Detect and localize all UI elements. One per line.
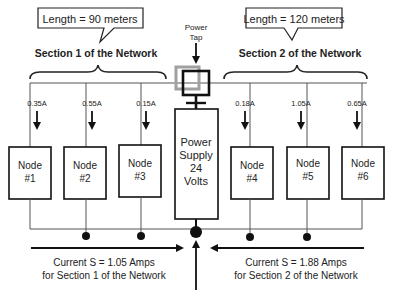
node-3-current: 0.15A	[136, 99, 156, 108]
node-3: 0.15A Node #3	[119, 83, 161, 240]
section-1-current-line2: for Section 1 of the Network	[42, 270, 166, 281]
power-supply-line3: 24	[190, 162, 202, 174]
junction-dot	[246, 233, 254, 241]
node-3-label: Node	[128, 158, 152, 169]
node-2-number: #2	[79, 173, 91, 184]
section-1-brace	[30, 65, 166, 79]
power-tap-label-1: Power	[185, 23, 208, 32]
node-4-current: 0.18A	[235, 99, 255, 108]
section-2-current-line1: Current S = 1.88 Amps	[245, 257, 346, 268]
node-2-label: Node	[73, 160, 97, 171]
network-diagram: Length = 90 meters Length = 120 meters S…	[0, 0, 395, 294]
node-4-number: #4	[246, 173, 258, 184]
node-6-number: #6	[357, 171, 369, 182]
length-callout-right: Length = 120 meters	[243, 8, 345, 40]
power-supply-line1: Power	[180, 136, 212, 148]
junction-dot	[82, 232, 90, 240]
node-5-number: #5	[302, 171, 314, 182]
section-1-title: Section 1 of the Network	[35, 47, 158, 59]
section-2-current-line2: for Section 2 of the Network	[234, 270, 358, 281]
section-2-title: Section 2 of the Network	[239, 47, 362, 59]
node-2: 0.55A Node #2	[64, 83, 106, 240]
node-3-number: #3	[134, 171, 146, 182]
node-1-current: 0.35A	[27, 99, 47, 108]
node-1-label: Node	[18, 160, 42, 171]
length-callout-left: Length = 90 meters	[38, 8, 143, 42]
node-2-current: 0.55A	[82, 99, 102, 108]
junction-dot	[303, 233, 311, 241]
length-label-right: Length = 120 meters	[243, 13, 345, 25]
node-6-label: Node	[351, 158, 375, 169]
node-4: 0.18A Node #4	[231, 83, 273, 241]
power-supply: Power Supply 24 Volts	[175, 109, 218, 219]
length-label-left: Length = 90 meters	[42, 13, 138, 25]
node-5-current: 1.05A	[291, 99, 311, 108]
node-4-label: Node	[240, 160, 264, 171]
section-2-brace	[224, 65, 367, 79]
node-6-current: 0.65A	[347, 99, 367, 108]
section-1-current-line1: Current S = 1.05 Amps	[53, 257, 154, 268]
node-6: 0.65A Node #6	[342, 83, 384, 229]
main-junction-dot	[190, 226, 202, 238]
node-5-label: Node	[296, 158, 320, 169]
node-1: 0.35A Node #1	[9, 83, 51, 229]
power-supply-line2: Supply	[179, 149, 213, 161]
junction-dot	[137, 232, 145, 240]
power-supply-line4: Volts	[184, 175, 208, 187]
node-1-number: #1	[24, 173, 36, 184]
power-tap-label-2: Tap	[190, 33, 203, 42]
node-5: 1.05A Node #5	[287, 83, 329, 241]
